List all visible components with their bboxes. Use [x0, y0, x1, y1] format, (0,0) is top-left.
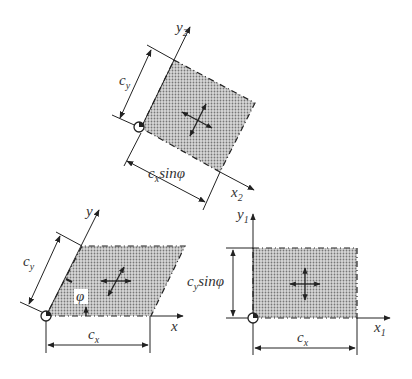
- svg-text:cy: cy: [119, 72, 131, 91]
- x-axis-label: x: [170, 318, 178, 334]
- svg-text:cysinφ: cysinφ: [187, 273, 224, 292]
- rectangle-figure: y1 cysinφ cx x1: [187, 206, 390, 355]
- svg-text:cx: cx: [88, 326, 100, 345]
- rotated-figure: y2 cy cxsinφ x2: [112, 19, 255, 210]
- y-axis-label: y: [84, 203, 93, 219]
- svg-text:y1: y1: [235, 206, 249, 225]
- parallelogram-figure: φ y cy cx x: [20, 203, 185, 353]
- svg-text:cx: cx: [297, 329, 309, 348]
- svg-text:x1: x1: [373, 319, 386, 338]
- svg-text:cxsinφ: cxsinφ: [148, 165, 185, 184]
- svg-text:cy: cy: [23, 253, 35, 272]
- diagram-canvas: y2 cy cxsinφ x2 φ y cy cx: [0, 0, 412, 379]
- rotated-rectangle: [141, 60, 255, 172]
- svg-text:y2: y2: [174, 19, 188, 38]
- svg-text:x2: x2: [230, 184, 243, 203]
- phi-label: φ: [76, 288, 84, 304]
